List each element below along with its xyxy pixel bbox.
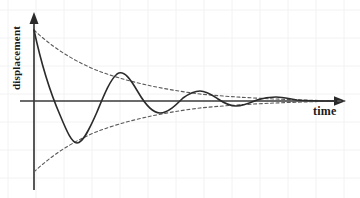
damped-oscillation-figure: displacement time	[0, 0, 360, 198]
y-axis-label: displacement	[10, 18, 22, 98]
oscillation-plot	[0, 0, 360, 198]
displacement-curve	[34, 30, 336, 143]
x-axis-label: time	[313, 104, 336, 119]
lower-envelope-curve	[34, 101, 344, 172]
y-axis-arrow-icon	[30, 12, 39, 24]
